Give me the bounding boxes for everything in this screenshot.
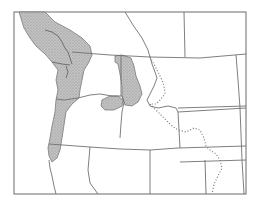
alberta-saskatchewan-border — [184, 12, 185, 57]
wyoming-south-border — [180, 160, 246, 162]
continental-divide — [150, 57, 222, 194]
bc-alberta-border — [125, 12, 150, 57]
map-canvas — [0, 0, 257, 210]
utah-colorado-border — [205, 160, 206, 194]
california-coastline — [49, 160, 56, 194]
idaho-montana-border — [147, 57, 178, 112]
range-map — [0, 0, 257, 210]
wyoming-north-border — [178, 106, 246, 108]
canada-us-border — [72, 52, 246, 58]
oregon-range-region — [101, 96, 123, 110]
california-nevada-border — [88, 147, 98, 194]
eastern-state-border — [236, 55, 244, 194]
oregon-california-border — [49, 144, 246, 150]
montana-wyoming-border — [178, 108, 246, 112]
